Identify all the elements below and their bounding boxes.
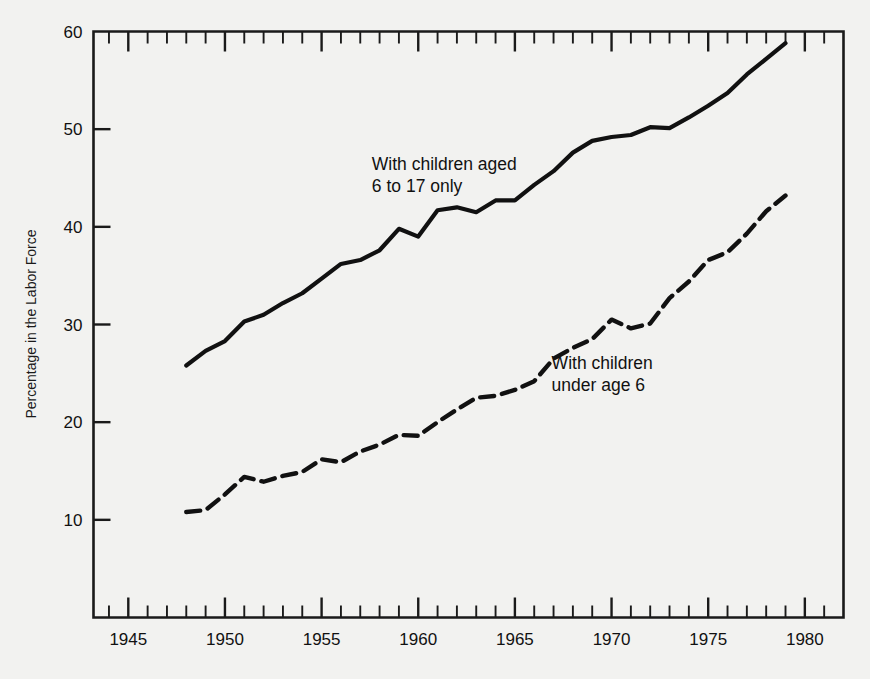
y-tick-label: 10 xyxy=(64,511,83,530)
x-tick-label: 1960 xyxy=(399,630,437,649)
x-tick-label: 1975 xyxy=(689,630,727,649)
y-tick-label: 40 xyxy=(64,218,83,237)
y-axis-title-text: Percentage in the Labor Force xyxy=(23,229,39,418)
x-tick-label: 1980 xyxy=(786,630,824,649)
y-tick-label: 50 xyxy=(64,120,83,139)
annotation-upper-line1: With children aged xyxy=(372,154,517,174)
y-axis-title: Percentage in the Labor Force xyxy=(23,229,39,418)
x-tick-label: 1955 xyxy=(303,630,341,649)
annotation-upper-line2: 6 to 17 only xyxy=(372,176,463,196)
x-tick-label: 1950 xyxy=(206,630,244,649)
y-tick-label: 60 xyxy=(64,23,83,42)
annotation-lower-line2: under age 6 xyxy=(552,375,645,395)
labor-force-participation-chart: 102030405060 194519501955196019651970197… xyxy=(0,0,870,679)
chart-background xyxy=(0,0,870,679)
y-tick-label: 30 xyxy=(64,316,83,335)
annotation-lower-line1: With children xyxy=(552,353,653,373)
x-tick-label: 1965 xyxy=(496,630,534,649)
y-tick-label: 20 xyxy=(64,413,83,432)
x-tick-label: 1945 xyxy=(109,630,147,649)
x-tick-label: 1970 xyxy=(593,630,631,649)
